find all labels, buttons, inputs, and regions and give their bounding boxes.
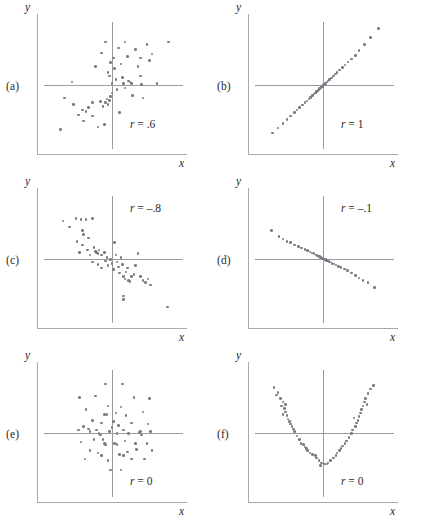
data-point	[112, 57, 115, 60]
data-point	[72, 103, 75, 106]
data-point	[130, 458, 133, 461]
data-point	[81, 229, 84, 232]
data-point	[319, 464, 322, 467]
data-point	[121, 263, 124, 266]
data-point	[109, 61, 112, 64]
data-point	[100, 267, 103, 270]
data-point	[99, 434, 102, 437]
data-point	[139, 75, 142, 78]
data-point	[133, 396, 136, 399]
data-point	[351, 429, 354, 432]
data-point	[340, 266, 343, 269]
data-point	[104, 443, 107, 446]
data-point	[106, 413, 109, 416]
data-point	[297, 245, 300, 248]
scatter-panel-f: (f)yxr = 0	[211, 348, 422, 522]
data-point	[127, 432, 130, 435]
data-point	[364, 397, 367, 400]
data-point	[115, 254, 118, 257]
data-point	[296, 109, 299, 112]
data-point	[94, 395, 97, 398]
data-point	[120, 406, 123, 409]
x-axis-label: x	[390, 506, 395, 518]
data-point	[122, 429, 125, 432]
data-point	[363, 43, 366, 46]
data-point	[126, 451, 129, 454]
data-point	[300, 247, 303, 250]
data-point	[108, 99, 111, 102]
data-point	[77, 114, 80, 117]
data-point	[336, 71, 339, 74]
data-point	[362, 405, 365, 408]
data-point	[71, 81, 74, 84]
correlation-label: r = 1	[341, 118, 363, 130]
data-point	[367, 281, 370, 284]
data-point	[151, 449, 154, 452]
data-point	[99, 100, 102, 103]
data-point	[139, 275, 142, 278]
data-point	[353, 417, 356, 420]
data-point	[343, 268, 346, 271]
data-point	[130, 422, 133, 425]
data-point	[293, 430, 296, 433]
data-point	[85, 218, 88, 221]
data-point	[149, 284, 152, 287]
data-point	[350, 432, 353, 435]
data-point	[355, 422, 358, 425]
data-point	[103, 251, 106, 254]
data-point	[282, 238, 285, 241]
scatter-panel-e: (e)yxr = 0	[0, 348, 211, 522]
correlation-value: = –.1	[345, 202, 372, 214]
data-point	[78, 396, 81, 399]
data-point	[81, 109, 84, 112]
data-point	[87, 106, 90, 109]
data-point	[107, 459, 110, 462]
data-point	[369, 36, 372, 39]
data-point	[108, 430, 111, 433]
data-point	[97, 126, 100, 129]
data-point	[282, 413, 285, 416]
scatter-panel-a: (a)yxr = .6	[0, 0, 211, 174]
data-point	[143, 458, 146, 461]
data-point	[75, 217, 78, 220]
data-point	[131, 94, 134, 97]
data-point	[107, 103, 110, 106]
data-point	[86, 249, 89, 252]
data-point	[82, 425, 85, 428]
data-point	[338, 69, 341, 72]
plot-area: r = –.8	[37, 188, 187, 329]
data-point	[332, 75, 335, 78]
data-point	[134, 48, 137, 51]
data-point	[62, 220, 65, 223]
plot-area: r = –.1	[248, 188, 398, 329]
data-point	[286, 118, 289, 121]
data-point	[134, 264, 137, 267]
data-point	[59, 128, 62, 131]
data-point	[284, 403, 287, 406]
panel-letter: (d)	[217, 254, 231, 266]
data-point	[340, 447, 343, 450]
data-point	[148, 397, 151, 400]
data-point	[129, 280, 132, 283]
x-axis-label: x	[390, 158, 395, 170]
data-point	[284, 411, 287, 414]
data-point	[344, 64, 347, 67]
data-point	[91, 419, 94, 422]
plot-area: r = 0	[37, 362, 187, 503]
data-point	[106, 256, 109, 259]
data-point	[84, 458, 87, 461]
data-point	[82, 233, 85, 236]
data-point	[377, 27, 380, 30]
data-point	[118, 272, 121, 275]
data-point	[87, 237, 90, 240]
correlation-value: = 0	[345, 475, 363, 487]
data-point	[98, 249, 101, 252]
data-point	[146, 442, 149, 445]
data-point	[122, 298, 125, 301]
x-axis-label: x	[179, 506, 184, 518]
data-point	[367, 392, 370, 395]
data-point	[298, 438, 301, 441]
data-point	[122, 295, 125, 298]
data-point	[134, 442, 137, 445]
scatter-panel-b: (b)yxr = 1	[211, 0, 422, 174]
